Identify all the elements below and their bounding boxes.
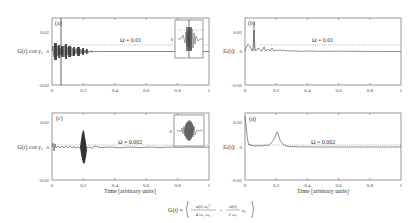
inset-ytick: 0 [171, 37, 174, 42]
xlabel-c: Time [arbitrary units] [104, 188, 156, 195]
panel-c: 0 (c) Ω = 0.002 0.02 0 -0.02 G(t) cos γ₁… [17, 113, 211, 195]
xtick-b-2: 0.4 [304, 88, 311, 93]
formula-term1-den: 4 ω₁ ω₂ [195, 212, 210, 217]
ytick-d-bot: -0.02 [232, 178, 243, 183]
panel-label-c: (c) [56, 115, 63, 122]
ytick-a-bot: -0.02 [39, 83, 50, 88]
ytick-c-top: 0.02 [40, 120, 49, 125]
xtick-a-1: 0.2 [80, 88, 87, 93]
xtick-d-1: 0.2 [273, 183, 280, 188]
ytick-b-bot: -0.02 [232, 83, 243, 88]
xtick-b-0: 0 [244, 88, 247, 93]
ytick-a-top: 0.02 [40, 30, 49, 35]
xtick-a-3: 0.6 [143, 88, 150, 93]
ytick-b-mid: 0 [240, 49, 243, 54]
xtick-b-4: 0.8 [367, 88, 374, 93]
inset-c: 0 [170, 115, 205, 146]
xlabel-d: Time [arbitrary units] [297, 188, 349, 195]
xtick-c-1: 0.2 [80, 183, 87, 188]
ytick-b-top: 0.02 [233, 30, 242, 35]
omega-label-b: Ω = 0.01 [312, 37, 333, 43]
formula-lhs: G(t) = [168, 207, 183, 214]
panel-label-b: (b) [248, 20, 255, 27]
xtick-b-3: 0.6 [335, 88, 342, 93]
xtick-b-5: 1 [400, 88, 403, 93]
formula-term2-tail: a₂ [242, 208, 246, 213]
xtick-c-5: 1 [208, 183, 211, 188]
formula-term2-num: α̇(t) [229, 204, 237, 209]
inset-c-ytick: 0 [170, 129, 173, 134]
ylabel-b: |G(t)| [223, 48, 235, 55]
omega-label-a: Ω = 0.01 [120, 37, 141, 43]
xtick-d-4: 0.8 [367, 183, 374, 188]
ytick-c-bot: -0.02 [39, 178, 50, 183]
ylabel-d: |G(t)| [223, 144, 235, 151]
omega-label-d: Ω = 0.002 [311, 139, 335, 145]
panel-a: 0 (a) Ω = 0.01 0.02 0 -0.02 G(t) cos γ₁ … [17, 18, 211, 93]
wave-packet-c [80, 130, 87, 164]
xtick-a-2: 0.4 [112, 88, 119, 93]
omega-label-c: Ω = 0.002 [118, 139, 142, 145]
xtick-c-0: 0 [51, 183, 54, 188]
xtick-d-0: 0 [244, 183, 247, 188]
panel-d: (d) Ω = 0.002 0.02 0 -0.02 |G(t)| 0 0.2 … [223, 113, 403, 195]
panel-label-a: (a) [55, 20, 62, 27]
panel-label-d: (d) [249, 116, 256, 123]
formula-minus: − [219, 207, 223, 213]
inset-a: 0 [171, 20, 204, 58]
ylabel-a: G(t) cos γ₁ [17, 48, 43, 55]
xtick-a-0: 0 [51, 88, 54, 93]
panel-b: (b) Ω = 0.01 0.02 0 -0.02 |G(t)| 0 0.2 0… [223, 18, 403, 93]
ylabel-c: G(t) cos γ₁ [17, 144, 43, 151]
xtick-c-4: 0.8 [174, 183, 181, 188]
xtick-a-4: 0.8 [174, 88, 181, 93]
formula-term1-num: α(t) a₀² [196, 204, 211, 209]
xtick-a-5: 1 [208, 88, 211, 93]
ytick-d-mid: 0 [240, 145, 243, 150]
ytick-a-mid: 0 [47, 49, 50, 54]
xtick-b-1: 0.2 [273, 88, 280, 93]
ytick-c-mid: 0 [47, 145, 50, 150]
ytick-d-top: 0.02 [233, 120, 242, 125]
formula: G(t) = α(t) a₀² 4 ω₁ ω₂ − α̇(t) 2 ω₁ a₂ [168, 201, 253, 218]
xtick-d-5: 1 [400, 183, 403, 188]
formula-term2-den: 2 ω₁ [229, 212, 238, 217]
figure: 0 (a) Ω = 0.01 0.02 0 -0.02 G(t) cos γ₁ … [0, 0, 418, 223]
